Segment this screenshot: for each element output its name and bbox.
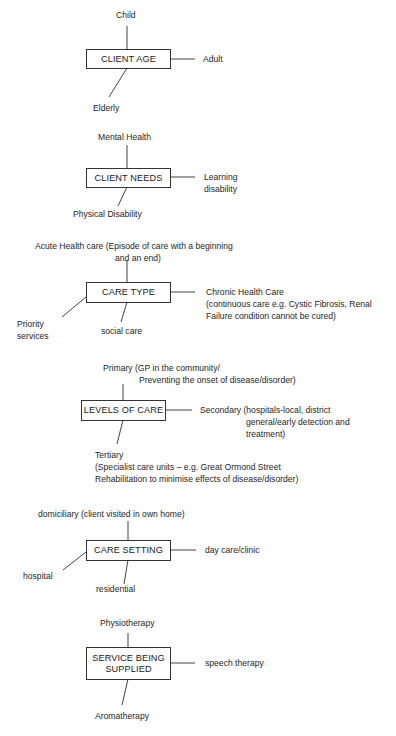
service-title-line-1: SERVICE BEING <box>92 653 165 664</box>
learning-disability-line-1: Learning <box>204 171 237 183</box>
care-setting-domiciliary-label: domiciliary (client visited in own home) <box>38 508 185 520</box>
care-type-priority-label: Priority services <box>17 318 49 342</box>
tertiary-line-3: Rehabilitation to minimise effects of di… <box>95 473 298 485</box>
client-age-elderly-label: Elderly <box>93 102 119 114</box>
levels-of-care-box: LEVELS OF CARE <box>81 400 166 421</box>
care-setting-hospital-label: hospital <box>23 570 53 582</box>
care-setting-residential-label: residential <box>96 583 135 595</box>
service-title-line-2: SUPPLIED <box>105 664 151 675</box>
tertiary-line-2: (Specialist care units – e.g. Great Ormo… <box>95 461 298 473</box>
client-needs-mental-health-label: Mental Health <box>98 131 151 143</box>
client-needs-physical-disability-label: Physical Disability <box>73 208 142 220</box>
service-aromatherapy-label: Aromatherapy <box>95 710 149 722</box>
client-age-box: CLIENT AGE <box>86 49 171 69</box>
care-type-social-care-label: social care <box>101 325 142 337</box>
levels-primary-line-2: Preventing the onset of disease/disorder… <box>139 374 296 386</box>
care-setting-day-care-label: day care/clinic <box>205 544 259 556</box>
care-type-acute-line-1: Acute Health care (Episode of care with … <box>35 240 233 252</box>
client-age-adult-label: Adult <box>203 53 223 65</box>
tertiary-line-1: Tertiary <box>95 449 298 461</box>
service-speech-therapy-label: speech therapy <box>205 657 264 669</box>
learning-disability-line-2: disability <box>204 183 237 195</box>
levels-secondary-line-3: treatment) <box>246 428 285 440</box>
chronic-line-1: Chronic Health Care <box>206 286 372 298</box>
priority-line-1: Priority <box>17 318 49 330</box>
chronic-line-3: Failure condition cannot be cured) <box>206 310 372 322</box>
care-type-acute-line-2: and an end) <box>115 252 161 264</box>
levels-tertiary-label: Tertiary (Specialist care units – e.g. G… <box>95 449 298 485</box>
chronic-line-2: (continuous care e.g. Cystic Fibrosis, R… <box>206 298 372 310</box>
levels-primary-line-1: Primary (GP in the community/ <box>103 362 220 374</box>
service-being-supplied-box: SERVICE BEING SUPPLIED <box>86 647 171 680</box>
levels-secondary-line-2: general/early detection and <box>246 416 350 428</box>
client-age-child-label: Child <box>116 9 136 21</box>
priority-line-2: services <box>17 330 49 342</box>
care-type-chronic-label: Chronic Health Care (continuous care e.g… <box>206 286 372 322</box>
client-needs-learning-label: Learning disability <box>204 171 237 195</box>
care-type-box: CARE TYPE <box>86 282 171 303</box>
levels-secondary-line-1: Secondary (hospitals-local, district <box>200 404 330 416</box>
care-setting-box: CARE SETTING <box>86 540 171 561</box>
service-physiotherapy-label: Physiotherapy <box>100 617 154 629</box>
client-needs-box: CLIENT NEEDS <box>86 168 171 188</box>
